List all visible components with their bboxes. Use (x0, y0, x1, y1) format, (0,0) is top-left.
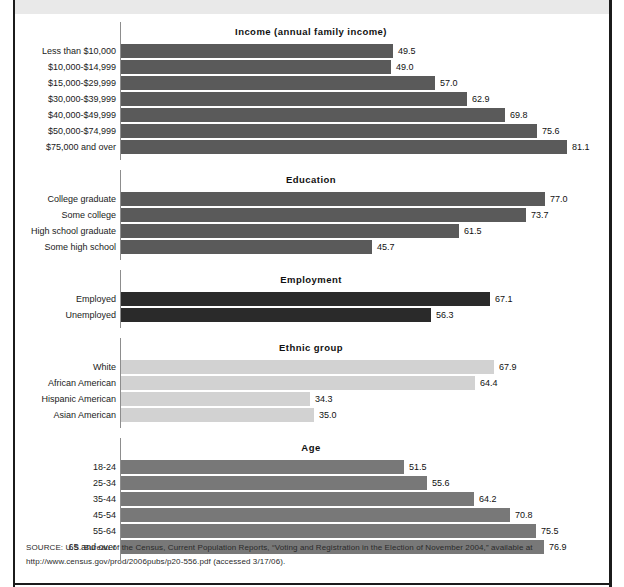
bar-value-label: 67.9 (499, 362, 517, 372)
bar-category-label: Employed (0, 294, 116, 304)
bar (121, 76, 435, 90)
section-title-income: Income (annual family income) (121, 26, 501, 37)
bar-value-label: 45.7 (377, 242, 395, 252)
bar-category-label: 18-24 (0, 462, 116, 472)
bar-value-label: 67.1 (495, 294, 513, 304)
bar-category-label: 35-44 (0, 494, 116, 504)
source-note: SOURCE: U.S. Bureau of the Census, Curre… (26, 541, 596, 569)
bar-category-label: Asian American (0, 410, 116, 420)
bar-value-label: 55.6 (432, 478, 450, 488)
bar (121, 140, 567, 154)
bar (121, 408, 314, 422)
bar (121, 240, 372, 254)
bar-category-label: Less than $10,000 (0, 46, 116, 56)
bar (121, 492, 474, 506)
bar (121, 192, 545, 206)
bar (121, 60, 391, 74)
section-title-education: Education (121, 174, 501, 185)
bar-value-label: 57.0 (440, 78, 458, 88)
bar-category-label: High school graduate (0, 226, 116, 236)
page-top-band-text (37, 0, 457, 8)
figure-container: Income (annual family income)Less than $… (0, 0, 624, 587)
bar (121, 124, 537, 138)
bar-category-label: Hispanic American (0, 394, 116, 404)
bar (121, 292, 490, 306)
bar-value-label: 64.2 (479, 494, 497, 504)
bar-value-label: 61.5 (464, 226, 482, 236)
bar-value-label: 56.3 (436, 310, 454, 320)
bar-value-label: 70.8 (515, 510, 533, 520)
bar-category-label: $15,000-$29,999 (0, 78, 116, 88)
bar (121, 524, 536, 538)
bar-category-label: Unemployed (0, 310, 116, 320)
bar (121, 460, 404, 474)
bar-category-label: $75,000 and over (0, 142, 116, 152)
bar (121, 224, 459, 238)
page-top-band (15, 0, 609, 14)
bar-value-label: 35.0 (319, 410, 337, 420)
section-title-age: Age (121, 442, 501, 453)
bar-category-label: 45-54 (0, 510, 116, 520)
bar-category-label: $40,000-$49,999 (0, 110, 116, 120)
bar (121, 208, 526, 222)
bar (121, 392, 310, 406)
section-title-ethnic-group: Ethnic group (121, 342, 501, 353)
bar-category-label: $10,000-$14,999 (0, 62, 116, 72)
bar-value-label: 49.0 (396, 62, 414, 72)
bar (121, 376, 475, 390)
bar (121, 92, 467, 106)
bar-category-label: $30,000-$39,999 (0, 94, 116, 104)
bar (121, 108, 505, 122)
bar-value-label: 77.0 (550, 194, 568, 204)
bar-value-label: 64.4 (480, 378, 498, 388)
bar-category-label: College graduate (0, 194, 116, 204)
section-title-employment: Employment (121, 274, 501, 285)
bar-value-label: 34.3 (315, 394, 333, 404)
bar-category-label: $50,000-$74,999 (0, 126, 116, 136)
bar (121, 308, 431, 322)
bar-value-label: 62.9 (472, 94, 490, 104)
bar-value-label: 69.8 (510, 110, 528, 120)
bar-value-label: 49.5 (398, 46, 416, 56)
bar-category-label: African American (0, 378, 116, 388)
bar (121, 360, 494, 374)
bar-category-label: Some high school (0, 242, 116, 252)
bar (121, 44, 393, 58)
bar-chart-plot-area: Income (annual family income)Less than $… (0, 14, 624, 534)
figure-bottom-rule (15, 583, 609, 585)
bar-category-label: White (0, 362, 116, 372)
bar-value-label: 51.5 (409, 462, 427, 472)
bar-value-label: 73.7 (531, 210, 549, 220)
bar-value-label: 75.6 (542, 126, 560, 136)
bar-value-label: 75.5 (541, 526, 559, 536)
bar (121, 476, 427, 490)
bar (121, 508, 510, 522)
bar-category-label: 25-34 (0, 478, 116, 488)
bar-value-label: 81.1 (572, 142, 590, 152)
bar-category-label: 55-64 (0, 526, 116, 536)
bar-category-label: Some college (0, 210, 116, 220)
